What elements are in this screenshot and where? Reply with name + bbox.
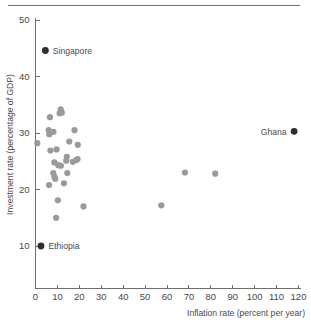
data-point <box>47 114 53 120</box>
x-tick-0: 0 <box>33 285 38 303</box>
x-tick-label: 60 <box>162 291 173 302</box>
y-tick-label: 20 <box>19 184 30 195</box>
data-point <box>212 171 218 177</box>
annotation-group: SingaporeEthiopiaGhana <box>38 46 298 251</box>
data-point <box>53 215 59 221</box>
data-point <box>52 176 58 182</box>
annotated-point-ghana: Ghana <box>261 127 298 137</box>
x-axis-title: Inflation rate (percent per year) <box>187 308 305 318</box>
x-tick-label: 70 <box>184 291 195 302</box>
x-tick-label: 120 <box>291 291 307 302</box>
y-tick-label: 30 <box>19 127 30 138</box>
data-point <box>80 203 86 209</box>
x-tick-label: 40 <box>118 291 129 302</box>
point-label-ghana: Ghana <box>261 127 287 137</box>
data-point <box>182 169 188 175</box>
data-point <box>47 147 53 153</box>
data-point <box>63 158 69 164</box>
x-tick-label: 20 <box>74 291 85 302</box>
data-point <box>50 129 56 135</box>
x-tick-60: 60 <box>162 285 173 303</box>
data-point <box>58 163 64 169</box>
x-tick-70: 70 <box>184 285 195 303</box>
y-tick-20: 20 <box>19 184 40 195</box>
data-point <box>61 180 67 186</box>
x-tick-label: 30 <box>96 291 107 302</box>
x-tick-label: 80 <box>206 291 217 302</box>
x-tick-label: 90 <box>227 291 238 302</box>
annotated-point-ethiopia: Ethiopia <box>38 241 80 251</box>
x-tick-20: 20 <box>74 285 85 303</box>
y-tick-label: 40 <box>19 71 30 82</box>
x-tick-80: 80 <box>206 285 217 303</box>
x-tick-30: 30 <box>96 285 107 303</box>
data-point <box>53 146 59 152</box>
point-label-ethiopia: Ethiopia <box>48 241 79 251</box>
x-tick-label: 100 <box>247 291 263 302</box>
y-tick-10: 10 <box>19 240 40 251</box>
x-tick-50: 50 <box>140 285 151 303</box>
data-point <box>34 140 40 146</box>
data-point <box>55 197 61 203</box>
data-point <box>46 182 52 188</box>
x-axis-ticks: 0102030405060708090100110120 <box>33 285 307 303</box>
data-point <box>158 202 164 208</box>
x-tick-10: 10 <box>52 285 63 303</box>
x-tick-90: 90 <box>227 285 238 303</box>
x-tick-120: 120 <box>291 285 307 303</box>
data-point-group <box>34 106 218 221</box>
y-tick-label: 50 <box>19 14 30 25</box>
scatter-plot: 1020304050 0102030405060708090100110120 … <box>0 0 311 323</box>
data-point <box>66 138 72 144</box>
x-tick-100: 100 <box>247 285 263 303</box>
y-tick-label: 10 <box>19 240 30 251</box>
data-point <box>71 127 77 133</box>
x-tick-40: 40 <box>118 285 129 303</box>
x-tick-label: 10 <box>52 291 63 302</box>
figure-container: 1020304050 0102030405060708090100110120 … <box>0 0 311 323</box>
y-tick-30: 30 <box>19 127 40 138</box>
annotated-point-singapore: Singapore <box>42 46 92 56</box>
data-point <box>75 142 81 148</box>
point-label-singapore: Singapore <box>53 46 92 56</box>
scatter-plot-svg: 1020304050 0102030405060708090100110120 … <box>0 0 311 323</box>
y-tick-40: 40 <box>19 71 40 82</box>
x-tick-110: 110 <box>269 285 284 303</box>
highlighted-data-point <box>291 128 298 135</box>
y-axis-ticks: 1020304050 <box>19 14 40 251</box>
highlighted-data-point <box>38 243 45 250</box>
x-tick-label: 110 <box>269 291 284 302</box>
y-axis-title: Investment rate (percentage of GDP) <box>5 74 15 215</box>
highlighted-data-point <box>42 47 49 54</box>
data-point <box>64 170 70 176</box>
x-tick-label: 50 <box>140 291 151 302</box>
x-tick-label: 0 <box>33 291 38 302</box>
data-point <box>57 110 63 116</box>
data-point <box>74 156 80 162</box>
y-tick-50: 50 <box>19 14 40 25</box>
